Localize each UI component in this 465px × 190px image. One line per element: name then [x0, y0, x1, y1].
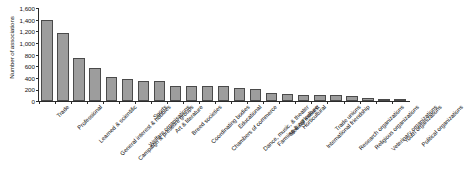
y-axis-tick-label: 1,200 [2, 29, 35, 35]
bar-cell [71, 9, 87, 101]
bar-cell [280, 9, 296, 101]
bar-cell [216, 9, 232, 101]
bar-cell [199, 9, 215, 101]
bar-cell [151, 9, 167, 101]
bar-cell [296, 9, 312, 101]
bar-cell [39, 9, 55, 101]
bar[interactable] [394, 99, 405, 101]
x-axis-category-label: Professional [76, 104, 103, 131]
y-axis-tick-label: 600 [2, 64, 35, 70]
bar[interactable] [346, 96, 357, 101]
x-axis-category-labels: TradeProfessionalLearned & scientificGen… [38, 104, 418, 190]
y-axis-tick-label: 0 [2, 99, 35, 105]
bar-cell [344, 9, 360, 101]
bar[interactable] [362, 98, 373, 101]
y-axis-tick-label: 800 [2, 53, 35, 59]
bar-cell [264, 9, 280, 101]
bar[interactable] [138, 81, 149, 101]
bar-cell [312, 9, 328, 101]
bar[interactable] [154, 81, 165, 101]
y-axis-tick-label: 400 [2, 76, 35, 82]
bar-cell [103, 9, 119, 101]
x-axis-category-label: Trade [55, 104, 71, 120]
bar[interactable] [330, 95, 341, 101]
bar[interactable] [122, 79, 133, 101]
bar-cell [376, 9, 392, 101]
bar[interactable] [73, 58, 84, 101]
bar[interactable] [250, 89, 261, 101]
bar[interactable] [41, 20, 52, 101]
bar-cell [167, 9, 183, 101]
bar[interactable] [266, 93, 277, 101]
y-axis-tick-label: 1,400 [2, 18, 35, 24]
bar-series [39, 9, 408, 101]
bar[interactable] [234, 88, 245, 101]
bar[interactable] [378, 99, 389, 101]
bar-cell [87, 9, 103, 101]
bar[interactable] [186, 86, 197, 101]
bar-cell [183, 9, 199, 101]
bar-cell [119, 9, 135, 101]
bar-cell [328, 9, 344, 101]
plot-area: 1,6001,4001,2001,0008006004002000 [38, 9, 408, 102]
bar[interactable] [298, 95, 309, 101]
bar[interactable] [89, 68, 100, 101]
bar[interactable] [202, 86, 213, 101]
bar-cell [392, 9, 408, 101]
bar-cell [55, 9, 71, 101]
bar-cell [248, 9, 264, 101]
bar[interactable] [106, 77, 117, 101]
bar[interactable] [314, 95, 325, 101]
bar[interactable] [282, 94, 293, 101]
bar-cell [135, 9, 151, 101]
y-axis-tick-label: 200 [2, 87, 35, 93]
bar-cell [360, 9, 376, 101]
y-axis-tick-label: 1,000 [2, 41, 35, 47]
bar[interactable] [218, 86, 229, 101]
bar[interactable] [170, 86, 181, 101]
bar-cell [232, 9, 248, 101]
y-axis-tick-label: 1,600 [2, 6, 35, 12]
bar[interactable] [57, 33, 68, 101]
